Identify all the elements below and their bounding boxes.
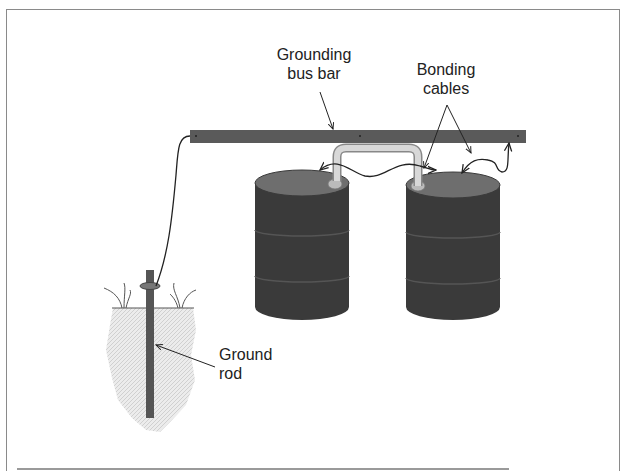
bus-bar-label-line2: bus bar <box>268 64 360 83</box>
transfer-pipe <box>337 148 418 186</box>
bonding-cable-bar <box>462 143 509 173</box>
bonding-cables-label: Bonding cables <box>404 60 488 98</box>
rod-label-line2: rod <box>219 364 299 383</box>
grounding-bus-bar[interactable] <box>190 130 526 143</box>
drum-right[interactable] <box>406 172 500 320</box>
drum-left[interactable] <box>255 170 349 320</box>
bonding-label-line2: cables <box>404 79 488 98</box>
rod-label-line1: Ground <box>219 345 299 364</box>
ground-cable <box>156 136 190 286</box>
bus-bar-label-line1: Grounding <box>268 45 360 64</box>
bonding-label-line1: Bonding <box>404 60 488 79</box>
ground-rod-label: Ground rod <box>219 345 299 383</box>
bus-bar-label: Grounding bus bar <box>268 45 360 83</box>
